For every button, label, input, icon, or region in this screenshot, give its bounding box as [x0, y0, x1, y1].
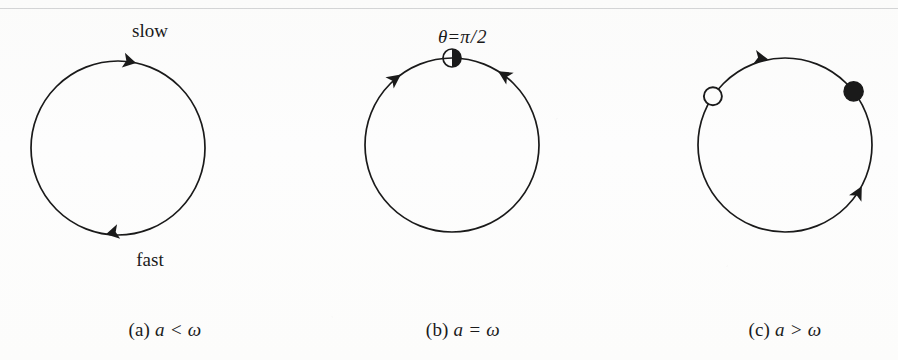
phase-circle [31, 61, 205, 235]
caption-marker-a: (a) [128, 319, 150, 340]
panel-c: (c) a > ω [620, 0, 898, 360]
stable-fixed-point [844, 82, 863, 101]
phase-circle [365, 58, 539, 232]
pi-symbol: π [460, 26, 470, 47]
panel-b: θ=π/2 (b) a = ω [298, 0, 598, 360]
label-fast: fast [0, 249, 300, 271]
caption-expression-c: a > ω [775, 319, 821, 340]
label-slow: slow [0, 20, 300, 42]
label-theta-value: θ=π/2 [298, 4, 598, 70]
arrowhead-bottom-clockwise [104, 224, 120, 241]
caption-marker-c: (c) [748, 319, 770, 340]
caption-expression-b: a = ω [454, 319, 500, 340]
caption-expression-a: a < ω [155, 319, 201, 340]
panel-c-diagram [620, 0, 898, 300]
caption-panel-a: (a) a < ω [0, 297, 300, 360]
phase-circle [698, 58, 872, 232]
denominator-two: 2 [477, 26, 487, 47]
caption-panel-c: (c) a > ω [620, 297, 898, 360]
caption-marker-b: (b) [426, 319, 449, 340]
fraction-slash: / [470, 26, 477, 47]
arrowhead-top-clockwise [753, 50, 769, 66]
caption-panel-b: (b) a = ω [298, 297, 598, 360]
arrowhead-lower-right-counterclockwise [849, 183, 868, 202]
equals-sign: = [447, 26, 460, 47]
figure-root: slow fast (a) a < ω θ=π/2 (b) a = ω [0, 0, 898, 360]
unstable-fixed-point [704, 87, 722, 105]
panel-a: slow fast (a) a < ω [0, 0, 300, 360]
theta-symbol: θ [438, 26, 447, 47]
